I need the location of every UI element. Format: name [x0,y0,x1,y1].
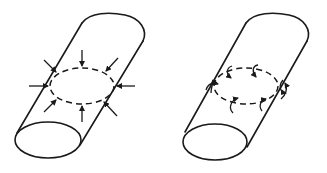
right-cylinder [183,13,308,160]
right-cylinder-left-edge [185,23,246,132]
curved-arrow-5-icon [231,98,238,113]
diagram-canvas [0,0,327,173]
left-cylinder-right-edge [80,41,143,145]
curved-arrow-7-icon [211,80,213,93]
arrow-top-left-icon [44,60,56,72]
curved-arrow-2-icon [253,65,258,77]
compressive-arrows [29,50,135,122]
arrow-bottom-left-icon [44,100,56,112]
right-cylinder-top-cap [246,13,308,41]
left-cylinder-bottom-end [15,122,81,158]
right-cylinder-right-edge [247,41,307,147]
curved-arrow-1-icon [227,66,232,78]
left-cylinder-left-edge [17,23,82,133]
left-cylinder [15,13,144,158]
right-cylinder-bottom-end [183,124,247,160]
arrow-top-right-icon [106,58,118,71]
left-cylinder-top-cap [82,13,144,41]
right-section-dashed-circle [214,68,278,104]
arrow-bottom-right-icon [104,102,117,116]
left-section-dashed-circle [50,68,114,104]
